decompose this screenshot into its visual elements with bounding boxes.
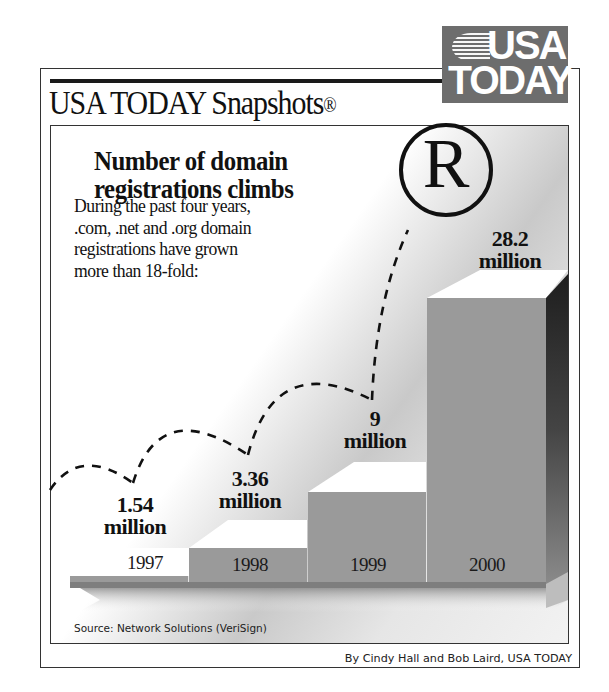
value: 3.36: [200, 468, 300, 490]
bar-top-1998: [189, 520, 307, 548]
subtitle-line: registrations have grown: [74, 238, 251, 260]
value: 1.54: [90, 494, 180, 516]
year-label-1998: 1998: [200, 555, 300, 575]
value-label-1998: 3.36 million: [200, 468, 300, 512]
subtitle-line: .com, .net and .org domain: [74, 217, 251, 239]
source-note: Source: Network Solutions (VeriSign): [74, 622, 267, 634]
unit: million: [90, 516, 180, 538]
subtitle-line: During the past four years,: [74, 195, 251, 217]
dashed-path-1: [50, 466, 133, 490]
value-label-1999: 9 million: [325, 408, 425, 452]
unit: million: [200, 490, 300, 512]
registered-trademark-icon: R: [408, 124, 484, 204]
year-label-2000: 2000: [437, 555, 537, 575]
unit: million: [325, 430, 425, 452]
bar-top-1999: [308, 462, 426, 492]
bar-top-2000: [427, 270, 568, 298]
value-label-1997: 1.54 million: [90, 494, 180, 538]
bar-1997: [70, 576, 188, 582]
chart-subtitle: During the past four years, .com, .net a…: [74, 195, 251, 281]
value: 28.2: [460, 228, 560, 250]
byline: By Cindy Hall and Bob Laird, USA TODAY: [320, 652, 572, 665]
year-label-1999: 1999: [318, 555, 418, 575]
base-strip: [70, 582, 546, 588]
value-label-2000: 28.2 million: [460, 228, 560, 272]
chart-title-line-1: Number of domain: [94, 147, 293, 175]
unit: million: [460, 250, 560, 272]
year-label-1997: 1997: [100, 553, 190, 573]
bar-chart-graphic: [0, 0, 609, 692]
bar-2000: [427, 298, 546, 582]
dashed-path-4: [372, 230, 408, 400]
bar-side-2000: [546, 274, 568, 584]
subtitle-line: more than 18-fold:: [74, 260, 251, 282]
value: 9: [325, 408, 425, 430]
